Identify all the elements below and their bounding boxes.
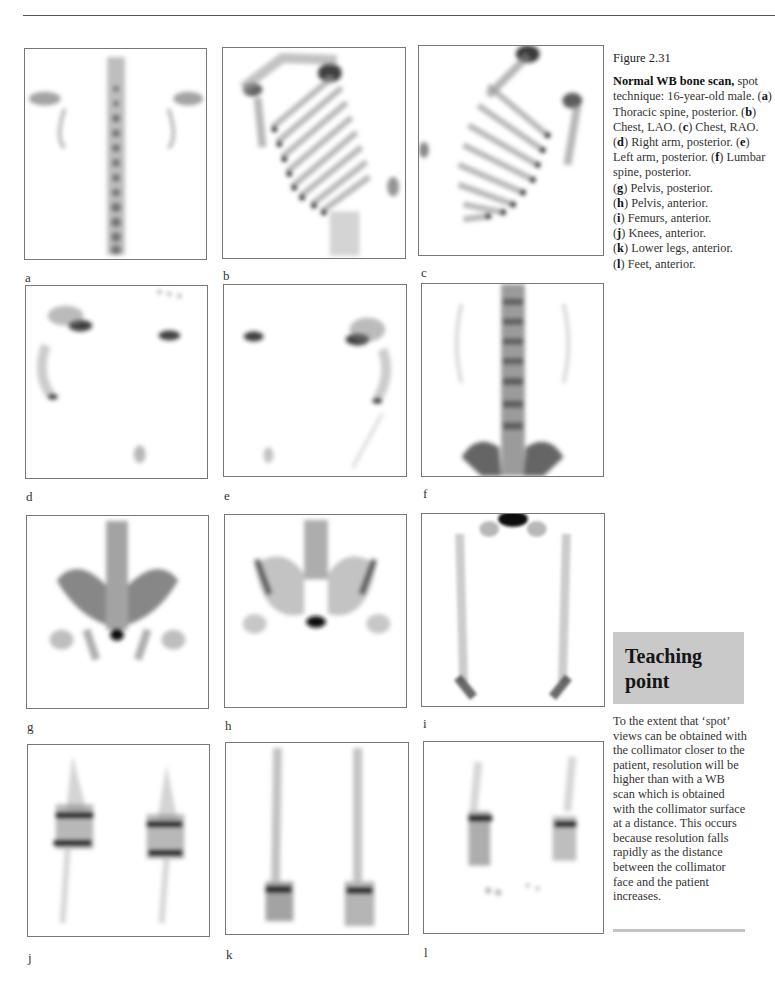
chest-rao-scan-image <box>419 46 603 255</box>
panel-label-f: f <box>423 486 427 502</box>
scan-panel-e <box>223 284 407 477</box>
right-arm-scan-image <box>26 286 207 478</box>
caption-item-g: (g) Pelvis, posterior. <box>613 181 713 195</box>
caption-item-j: (j) Knees, anterior. <box>613 226 706 240</box>
caption-item-k: (k) Lower legs, anterior. <box>613 241 733 255</box>
caption-item-d: (d) Right arm, posterior. <box>613 135 733 149</box>
panel-label-h: h <box>225 718 232 734</box>
teaching-point-text: To the extent that ‘spot’ views can be o… <box>613 714 748 904</box>
thoracic-spine-scan-image <box>25 49 206 259</box>
caption-item-i: (i) Femurs, anterior. <box>613 211 711 225</box>
teaching-point-title-line2: point <box>625 669 744 694</box>
scan-panel-a <box>24 48 207 260</box>
panel-label-c: c <box>421 265 427 281</box>
scan-panel-k <box>225 742 409 935</box>
figure-number: Figure 2.31 <box>613 51 773 66</box>
panel-label-a: a <box>25 270 31 286</box>
scan-panel-g <box>26 515 209 709</box>
caption-item-h: (h) Pelvis, anterior. <box>613 196 708 210</box>
knees-anterior-scan-image <box>28 745 209 936</box>
panel-label-l: l <box>424 945 428 961</box>
femurs-anterior-scan-image <box>422 514 604 706</box>
scan-panel-j <box>27 744 210 937</box>
teaching-point-title-line1: Teaching <box>625 644 744 669</box>
figure-title: Normal WB bone scan, <box>613 74 734 88</box>
scan-panel-i <box>421 513 605 707</box>
pelvis-posterior-scan-image <box>27 516 208 708</box>
page-top-rule <box>23 15 775 16</box>
panel-label-d: d <box>26 489 33 505</box>
teaching-point-box: Teaching point <box>613 632 744 704</box>
caption-item-c: (c) Chest, RAO. <box>679 120 759 134</box>
panel-label-g: g <box>27 719 34 735</box>
teaching-point-bottom-rule <box>613 929 745 932</box>
figure-caption-text: Normal WB bone scan, spot technique: 16-… <box>613 74 773 272</box>
left-arm-scan-image <box>224 285 406 476</box>
pelvis-anterior-scan-image <box>225 515 406 707</box>
panel-label-e: e <box>224 488 230 504</box>
scan-panel-c <box>418 45 604 256</box>
lower-legs-anterior-scan-image <box>226 743 408 934</box>
figure-caption: Figure 2.31 Normal WB bone scan, spot te… <box>613 51 773 272</box>
panel-label-j: j <box>28 950 32 966</box>
scan-panel-l <box>423 741 604 934</box>
scan-panel-h <box>224 514 407 708</box>
scan-panel-f <box>421 283 604 477</box>
scan-panel-b <box>222 47 406 259</box>
chest-lao-scan-image <box>223 48 405 258</box>
lumbar-spine-scan-image <box>422 284 603 476</box>
panel-label-k: k <box>226 947 233 963</box>
caption-item-l: (l) Feet, anterior. <box>613 257 696 271</box>
scan-panel-d <box>25 285 208 479</box>
feet-anterior-scan-image <box>424 742 603 933</box>
panel-label-i: i <box>423 716 427 732</box>
panel-label-b: b <box>223 268 230 284</box>
